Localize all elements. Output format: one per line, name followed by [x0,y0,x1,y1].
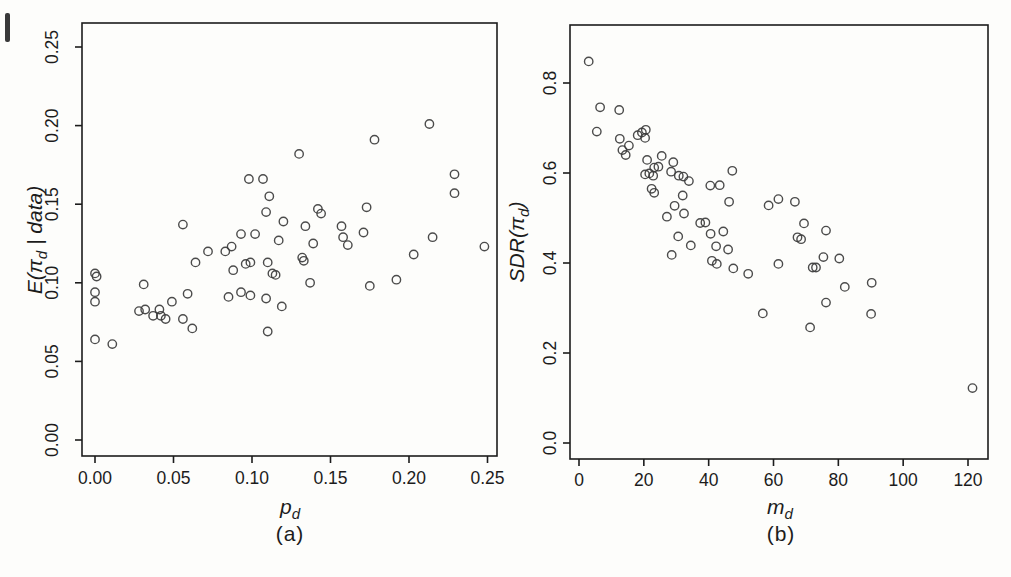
data-point [685,177,693,185]
data-point [450,170,458,178]
data-point [724,245,732,253]
y-tick-label: 0.6 [540,161,560,185]
data-point [227,242,235,250]
plot-box [570,25,988,459]
data-point [679,191,687,199]
x-tick-label: 0.00 [78,468,112,488]
data-point [301,222,309,230]
panel-a: 0.000.050.100.150.200.250.000.050.100.15… [23,23,505,522]
data-point [428,233,436,241]
data-point [224,293,232,301]
data-point [712,242,720,250]
x-tick-label: 0.20 [392,468,426,488]
y-tick-label: 0.00 [42,423,62,457]
data-point [246,291,254,299]
data-point [835,254,843,262]
data-point [295,150,303,158]
data-point [791,198,799,206]
data-point [179,315,187,323]
data-point [425,120,433,128]
data-point [968,384,976,392]
y-axis-title: SDR(πd​) [505,202,532,283]
x-axis-title: md​ [767,495,794,522]
data-point [615,106,623,114]
data-point [337,222,345,230]
x-tick-label: 120 [953,470,982,490]
data-point [344,241,352,249]
data-point [800,219,808,227]
data-point [806,323,814,331]
data-point [392,276,400,284]
x-tick-label: 80 [829,470,849,490]
y-tick-label: 0.4 [540,251,560,276]
plot-box [82,23,497,456]
data-point [663,213,671,221]
data-point [774,195,782,203]
data-point [91,288,99,296]
data-point [179,220,187,228]
data-point [764,201,772,209]
data-point [359,228,367,236]
data-point [92,272,100,280]
panel-b: 0204060801001200.00.20.40.60.8md​SDR(πd​… [505,25,988,522]
x-axis-title: pd​ [279,495,301,522]
data-point [168,298,176,306]
data-point [868,279,876,287]
data-point [183,290,191,298]
y-tick-label: 0.20 [42,108,62,142]
data-point [728,167,736,175]
data-point [774,260,782,268]
data-point [819,253,827,261]
data-point [680,209,688,217]
data-point [669,158,677,166]
data-point [759,309,767,317]
data-point [706,230,714,238]
data-point [278,302,286,310]
data-point [191,258,199,266]
label-segment: SDR(π [505,216,528,282]
x-tick-label: 20 [634,470,654,490]
data-point [91,298,99,306]
y-tick-label: 0.8 [540,71,560,95]
points-layer [91,120,489,348]
data-point [251,230,259,238]
data-point [279,217,287,225]
data-point [725,198,733,206]
data-point [593,127,601,135]
data-point [309,239,317,247]
label-segment: E(π [23,258,46,294]
x-tick-label: 100 [889,470,918,490]
data-point [275,236,283,244]
x-tick-label: 60 [764,470,784,490]
data-point [262,294,270,302]
data-point [237,288,245,296]
data-point [237,230,245,238]
y-axis-title: E(πd​ | data) [23,186,50,294]
data-point [585,57,593,65]
data-point [867,310,875,318]
data-point [264,258,272,266]
x-tick-label: 0.10 [235,468,269,488]
data-point [188,324,196,332]
data-point [265,192,273,200]
data-point [701,218,709,226]
label-segment: m [767,495,785,518]
data-point [362,203,370,211]
x-tick-label: 0 [574,470,584,490]
data-point [716,181,724,189]
data-point [670,202,678,210]
data-point [822,298,830,306]
data-point [841,283,849,291]
x-tick-label: 40 [699,470,719,490]
data-point [264,327,272,335]
data-point [719,227,727,235]
data-point [91,335,99,343]
data-point [339,233,347,241]
panel-a-caption: (a) [230,522,350,546]
data-point [306,279,314,287]
points-layer [585,57,977,392]
y-tick-label: 0.2 [540,341,560,365]
y-tick-label: 0.0 [540,431,560,456]
data-point [668,251,676,259]
panel-b-caption: (b) [721,522,841,546]
